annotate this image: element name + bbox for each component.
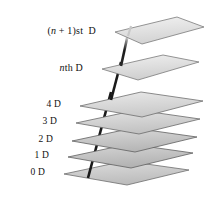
math-var-n: n — [51, 25, 56, 36]
plane-n-plus-1 — [115, 17, 204, 44]
vertical-arrow-upper — [121, 34, 128, 66]
label-4-d: 4 D — [46, 100, 61, 110]
label-3-d: 3 D — [42, 117, 57, 127]
plane-4d — [80, 92, 203, 117]
math-var-n: n — [59, 62, 64, 73]
label-nth-d: nth D — [59, 63, 83, 73]
layered-planes-figure: (n + 1)st D nth D 4 D 3 D 2 D 1 D 0 D — [0, 0, 205, 201]
label-0-d: 0 D — [30, 168, 45, 178]
label-n-plus-1-d: (n + 1)st D — [47, 26, 96, 36]
label-1-d: 1 D — [34, 151, 49, 161]
label-text: nth D — [59, 62, 83, 73]
label-text: (n + 1)st D — [47, 25, 96, 36]
label-2-d: 2 D — [38, 135, 53, 145]
